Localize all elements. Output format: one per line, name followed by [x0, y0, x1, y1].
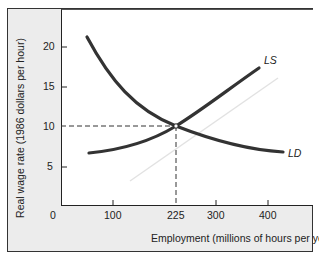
y-axis-label: Real wage rate (1986 dollars per hour): [14, 38, 26, 218]
x-tick-label-0: 0: [50, 209, 56, 221]
x-tick-label-400: 400: [259, 209, 277, 221]
x-tick-label-225: 225: [167, 209, 185, 221]
x-tick-label-100: 100: [104, 209, 122, 221]
y-tick-label-10: 10: [43, 120, 55, 132]
x-tick-label-300: 300: [207, 209, 225, 221]
y-tick-label-20: 20: [43, 40, 55, 52]
y-tick-label-5: 5: [47, 160, 53, 172]
x-axis-label: Employment (millions of hours per year): [151, 232, 319, 244]
faint-supply-line: [130, 78, 278, 181]
ld-label: LD: [288, 147, 301, 159]
ls-label: LS: [264, 54, 277, 66]
equilibrium-point: [174, 124, 178, 128]
y-tick-label-15: 15: [43, 80, 55, 92]
